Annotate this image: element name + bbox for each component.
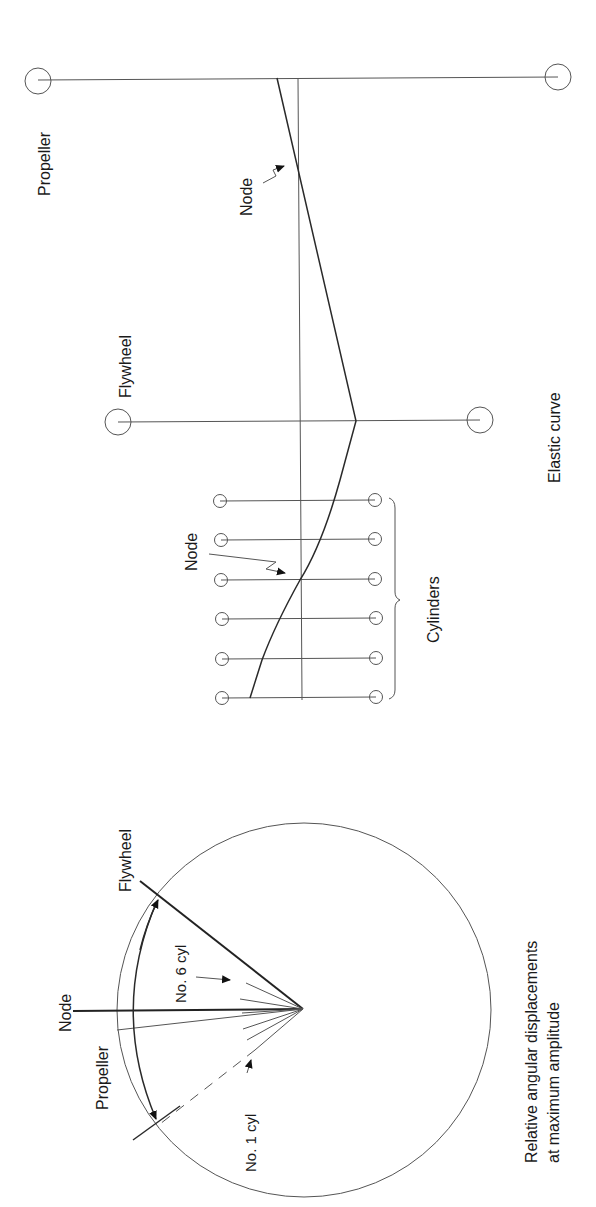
label-propeller: Propeller <box>36 131 53 196</box>
flywheel-mass <box>105 407 493 435</box>
node-line <box>73 1009 303 1011</box>
cylinder-rays <box>240 983 303 1050</box>
no1-cyl-arrow <box>247 1060 251 1073</box>
angular-displacement-diagram: Node Propeller Flywheel No. 6 cyl No. 1 … <box>57 823 562 1197</box>
elastic-curve <box>250 78 356 698</box>
node-upper-arrow <box>273 166 284 170</box>
label-propeller: Propeller <box>94 1045 111 1110</box>
node-lower-arrow <box>266 569 285 573</box>
label-cylinders: Cylinders <box>425 576 442 643</box>
label-flywheel: Flywheel <box>117 829 134 892</box>
propeller-limit-tick <box>133 1106 180 1140</box>
caption-line-2: at maximum amplitude <box>545 1002 562 1163</box>
propeller-line <box>117 1009 303 1030</box>
propeller-circle-left <box>25 68 51 94</box>
caption-line-1: Relative angular displacements <box>523 941 540 1163</box>
label-node-lower: Node <box>183 533 200 571</box>
elastic-curve-diagram: Propeller Node Flywheel Node Cylinders E… <box>25 64 571 705</box>
label-flywheel: Flywheel <box>117 335 134 398</box>
cylinders-brace <box>389 498 400 699</box>
cylinder-masses <box>214 494 383 705</box>
label-no1-cyl: No. 1 cyl <box>242 1114 259 1172</box>
node-lower-zigzag <box>209 554 276 569</box>
no1-cyl-dashed-line <box>160 1050 255 1124</box>
label-elastic-curve: Elastic curve <box>546 392 563 483</box>
amplitude-arc-top-arrow <box>140 900 158 950</box>
node-upper-zigzag <box>263 170 276 183</box>
label-no6-cyl: No. 6 cyl <box>172 945 189 1003</box>
label-node: Node <box>57 994 74 1032</box>
label-node-upper: Node <box>238 178 255 216</box>
no6-cyl-arrow <box>196 977 230 980</box>
flywheel-line <box>140 881 303 1009</box>
torsional-vibration-figure: Propeller Node Flywheel Node Cylinders E… <box>0 0 596 1207</box>
